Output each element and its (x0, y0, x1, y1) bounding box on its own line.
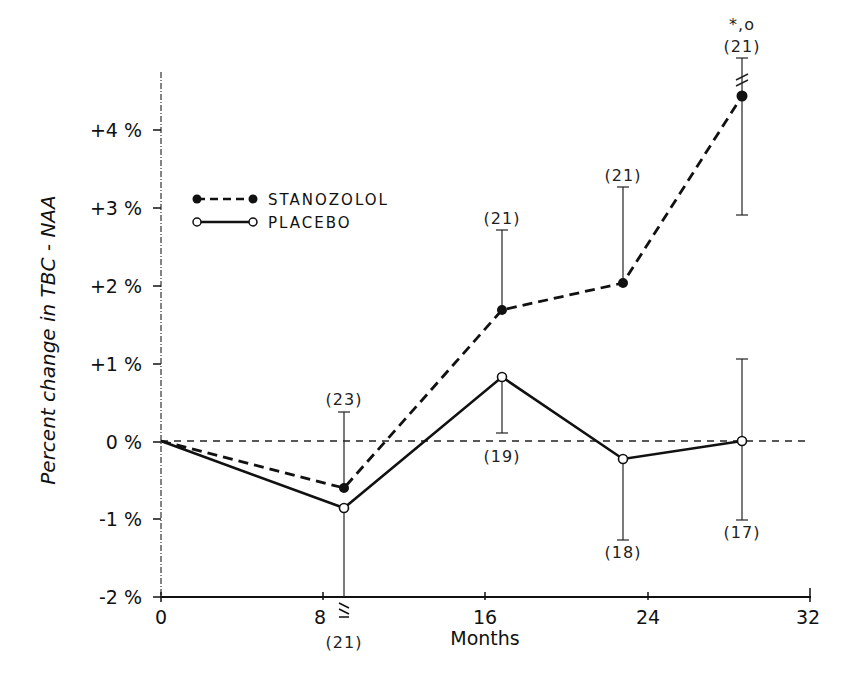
n-label: (18) (605, 543, 642, 562)
y-tick-label: +3 % (90, 197, 142, 219)
n-label: (21) (326, 633, 363, 652)
significance-label: *,o (729, 15, 755, 34)
n-label: (23) (326, 390, 363, 409)
x-tick-label: 32 (796, 606, 820, 628)
x-ticks (161, 588, 810, 602)
y-tick-label: -2 % (99, 586, 142, 608)
placebo-line (161, 377, 742, 508)
x-tick-label: 8 (314, 606, 326, 628)
placebo-markers (340, 373, 747, 513)
x-tick-label: 24 (636, 606, 660, 628)
error-bars (338, 58, 748, 597)
x-tick-label: 0 (155, 606, 167, 628)
n-label: (19) (484, 447, 521, 466)
y-tick-label: +1 % (90, 353, 142, 375)
open-circle-icon (193, 218, 201, 226)
filled-circle-icon (193, 195, 202, 204)
n-label: (17) (724, 523, 761, 542)
chart-canvas: +4 % +3 % +2 % +1 % 0 % -1 % -2 % 0 8 16… (0, 0, 857, 696)
x-tick-label: 16 (473, 606, 497, 628)
n-label: (21) (724, 37, 761, 56)
y-ticks (153, 130, 161, 597)
legend-stanozolol: STANOZOLOL (268, 191, 389, 209)
stanozolol-markers (339, 91, 748, 494)
y-tick-label: 0 % (106, 431, 142, 453)
stanozolol-line (161, 96, 742, 488)
n-label: (21) (484, 209, 521, 228)
y-tick-label: -1 % (99, 508, 142, 530)
n-label: (21) (605, 166, 642, 185)
axis-break-icon (339, 603, 349, 617)
y-tick-label: +2 % (90, 275, 142, 297)
x-axis-label: Months (450, 627, 519, 649)
legend-placebo: PLACEBO (268, 214, 352, 232)
y-axis-label: Percent change in TBC - NAA (36, 195, 60, 484)
legend: STANOZOLOL PLACEBO (193, 191, 389, 232)
y-tick-label: +4 % (90, 119, 142, 141)
